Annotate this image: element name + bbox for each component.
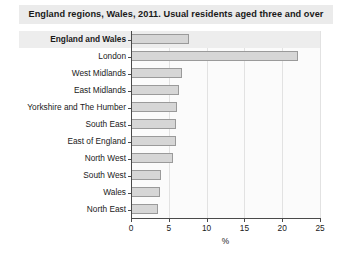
x-axis-tick [131, 218, 132, 222]
bar-row: Yorkshire and The Humber [131, 99, 320, 116]
x-axis-tick-label: 25 [305, 223, 335, 233]
bar [131, 119, 176, 129]
y-axis-line [131, 31, 132, 218]
x-axis-tick [282, 218, 283, 222]
category-label: England and Wales [0, 31, 126, 48]
bar [131, 136, 176, 146]
bar-row: East Midlands [131, 82, 320, 99]
chart-container: England regions, Wales, 2011. Usual resi… [0, 0, 342, 257]
bar [131, 51, 298, 61]
bar-row: North West [131, 150, 320, 167]
bar-row: East of England [131, 133, 320, 150]
bar [131, 153, 173, 163]
x-axis-tick [320, 218, 321, 222]
category-label: London [0, 48, 126, 65]
category-label: South West [0, 167, 126, 184]
x-axis-tick-label: 15 [229, 223, 259, 233]
gridline [320, 31, 321, 218]
x-axis-tick [169, 218, 170, 222]
x-axis-tick-label: 20 [267, 223, 297, 233]
bar [131, 68, 182, 78]
bar [131, 187, 160, 197]
x-axis-tick-label: 0 [116, 223, 146, 233]
x-axis-title: % [131, 236, 320, 246]
bar [131, 170, 161, 180]
category-label: North East [0, 201, 126, 218]
bar-row: South East [131, 116, 320, 133]
bar-row: North East [131, 201, 320, 218]
category-label: Wales [0, 184, 126, 201]
bar-row: South West [131, 167, 320, 184]
x-axis-tick [207, 218, 208, 222]
category-label: East Midlands [0, 82, 126, 99]
bar [131, 102, 177, 112]
category-label: North West [0, 150, 126, 167]
x-axis-tick [244, 218, 245, 222]
x-axis-tick-label: 5 [154, 223, 184, 233]
bar [131, 85, 179, 95]
category-label: Yorkshire and The Humber [0, 99, 126, 116]
category-label: South East [0, 116, 126, 133]
bar-row: London [131, 48, 320, 65]
chart-title: England regions, Wales, 2011. Usual resi… [19, 5, 333, 24]
bar-row: Wales [131, 184, 320, 201]
x-axis-line [131, 218, 320, 219]
bar [131, 204, 158, 214]
bar [131, 34, 189, 44]
x-axis-tick-label: 10 [192, 223, 222, 233]
plot-area: England and WalesLondonWest MidlandsEast… [131, 31, 320, 218]
bar-row: West Midlands [131, 65, 320, 82]
category-label: East of England [0, 133, 126, 150]
bar-row: England and Wales [131, 31, 320, 48]
category-label: West Midlands [0, 65, 126, 82]
